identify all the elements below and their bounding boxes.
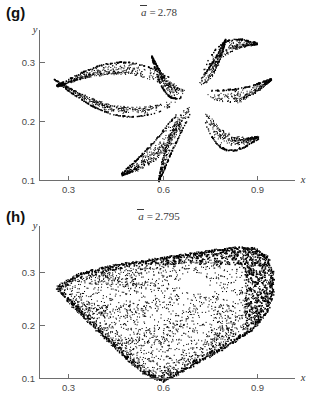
ytick-label: 0.2 [22,116,35,127]
xtick-label: 0.3 [62,184,75,195]
x-axis-label: x [300,372,306,383]
y-axis-label: y [32,24,38,35]
y-axis-label: y [32,220,38,231]
ytick-label: 0.3 [22,57,35,68]
panel-g: (g) a=2.78 0.10.20.30.30.60.9xy [0,0,317,204]
xtick-label: 0.6 [157,382,170,393]
ytick-label: 0.3 [22,267,35,278]
xtick-label: 0.9 [251,184,264,195]
panel-h: (h) a=2.795 0.10.20.30.30.60.9xy [0,204,317,408]
ytick-label: 0.1 [22,373,35,384]
xtick-label: 0.9 [251,382,264,393]
panel-g-plot: 0.10.20.30.30.60.9xy [0,0,317,204]
ytick-label: 0.1 [22,175,35,186]
xtick-label: 0.3 [62,382,75,393]
x-axis-label: x [300,174,306,185]
axes-g: 0.10.20.30.30.60.9xy [22,24,306,195]
xtick-label: 0.6 [157,184,170,195]
attractor-points-h [56,246,275,383]
ytick-label: 0.2 [22,320,35,331]
attractor-points-g [54,39,272,183]
panel-h-plot: 0.10.20.30.30.60.9xy [0,204,317,408]
